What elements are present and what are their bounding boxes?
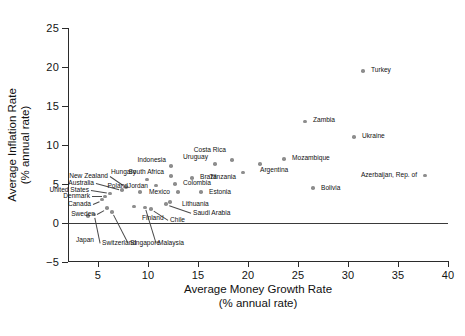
x-axis-title-line2: (% annual rate) xyxy=(68,296,448,310)
y-tick-mark xyxy=(62,67,68,68)
x-tick-label: 30 xyxy=(342,269,355,281)
data-point-label: United States xyxy=(49,186,89,193)
data-point[interactable] xyxy=(103,195,107,199)
data-point-label: Jordan xyxy=(128,182,148,189)
data-point-label: Tanzania xyxy=(210,173,236,180)
data-point-label: Lithuania xyxy=(182,200,209,207)
x-tick-label: 10 xyxy=(142,269,155,281)
y-axis-title-line2: (% annual rate) xyxy=(19,106,33,185)
data-point[interactable] xyxy=(361,69,365,73)
x-tick-label: 15 xyxy=(192,269,205,281)
y-tick-label: −5 xyxy=(46,256,59,268)
data-point[interactable] xyxy=(199,190,203,194)
data-point-label: Poland xyxy=(107,182,128,189)
y-tick-label: 15 xyxy=(46,100,59,112)
data-point-label: Bolivia xyxy=(321,184,340,191)
x-axis-title-line1: Average Money Growth Rate xyxy=(68,282,448,296)
label-leader-line xyxy=(97,210,105,215)
data-point[interactable] xyxy=(169,174,173,178)
data-point-label: Mexico xyxy=(149,188,170,195)
data-point[interactable] xyxy=(105,206,109,210)
x-axis-title: Average Money Growth Rate (% annual rate… xyxy=(68,282,448,310)
x-tick-mark xyxy=(448,261,449,267)
x-tick-label: 25 xyxy=(292,269,305,281)
data-point[interactable] xyxy=(169,164,173,168)
y-tick-label: 20 xyxy=(46,61,59,73)
data-point[interactable] xyxy=(168,200,172,204)
data-point[interactable] xyxy=(138,190,142,194)
data-point[interactable] xyxy=(176,190,180,194)
y-tick-label: 25 xyxy=(46,22,59,34)
scatter-plot-figure: Average Inflation Rate (% annual rate) A… xyxy=(0,0,465,336)
x-tick-mark xyxy=(148,261,149,267)
data-point-label: Chile xyxy=(170,216,185,223)
y-axis-title-line1: Average Inflation Rate xyxy=(6,88,20,202)
data-point[interactable] xyxy=(154,184,158,188)
y-tick-mark xyxy=(62,223,68,224)
data-point[interactable] xyxy=(352,135,356,139)
data-point-label: Estonia xyxy=(209,188,231,195)
x-tick-mark xyxy=(248,261,249,267)
data-point-label: Zambia xyxy=(313,116,335,123)
data-point[interactable] xyxy=(132,205,136,209)
data-point[interactable] xyxy=(108,192,112,196)
y-axis-title: Average Inflation Rate (% annual rate) xyxy=(2,28,36,262)
label-leader-line xyxy=(93,201,100,204)
y-tick-mark xyxy=(62,106,68,107)
data-point[interactable] xyxy=(143,206,147,210)
label-leader-line xyxy=(91,190,107,193)
y-tick-mark xyxy=(62,184,68,185)
data-point[interactable] xyxy=(173,182,177,186)
data-point[interactable] xyxy=(110,210,114,214)
y-tick-mark xyxy=(62,145,68,146)
data-point-label: Mozambique xyxy=(292,154,330,161)
data-point[interactable] xyxy=(100,198,104,202)
label-leader-line xyxy=(94,218,100,244)
data-point[interactable] xyxy=(423,174,427,178)
data-point-label: Ukraine xyxy=(362,132,385,139)
data-point-label: Costa Rica xyxy=(194,146,226,153)
y-tick-mark xyxy=(62,262,68,263)
data-point-label: Argentina xyxy=(260,166,288,173)
data-point-label: South Africa xyxy=(128,168,164,175)
y-tick-label: 0 xyxy=(53,217,59,229)
data-point-label: New Zealand xyxy=(69,172,108,179)
data-point-label: Canada xyxy=(68,200,91,207)
data-point[interactable] xyxy=(149,207,153,211)
data-point[interactable] xyxy=(303,120,307,124)
y-axis-line xyxy=(68,28,69,262)
data-point-label: Sweden xyxy=(71,210,95,217)
data-point-label: Malaysia xyxy=(158,239,184,246)
x-tick-label: 35 xyxy=(392,269,405,281)
data-point[interactable] xyxy=(311,186,315,190)
x-tick-mark xyxy=(298,261,299,267)
x-tick-label: 20 xyxy=(242,269,255,281)
zero-reference-line xyxy=(68,223,448,224)
plot-area: −50510152025 510152025303540 Switzerland… xyxy=(68,28,448,262)
data-point-label: Saudi Arabia xyxy=(193,209,230,216)
data-point-label: Japan xyxy=(76,236,94,243)
data-point[interactable] xyxy=(213,162,217,166)
data-point[interactable] xyxy=(230,158,234,162)
x-tick-mark xyxy=(398,261,399,267)
data-point-label: Azerbaijan, Rep. of xyxy=(361,171,417,178)
label-leader-line xyxy=(92,196,102,197)
data-point-label: Indonesia xyxy=(137,156,166,163)
data-point[interactable] xyxy=(164,202,168,206)
data-point-label: Turkey xyxy=(371,66,391,73)
x-tick-mark xyxy=(198,261,199,267)
data-point[interactable] xyxy=(282,157,286,161)
x-tick-label: 5 xyxy=(95,269,101,281)
x-axis-line xyxy=(68,261,448,262)
data-point-label: Australia xyxy=(68,179,94,186)
x-tick-mark xyxy=(98,261,99,267)
y-tick-label: 10 xyxy=(46,139,59,151)
data-point[interactable] xyxy=(241,171,245,175)
x-tick-mark xyxy=(348,261,349,267)
y-tick-mark xyxy=(62,28,68,29)
data-point[interactable] xyxy=(190,176,194,180)
x-tick-label: 40 xyxy=(442,269,455,281)
